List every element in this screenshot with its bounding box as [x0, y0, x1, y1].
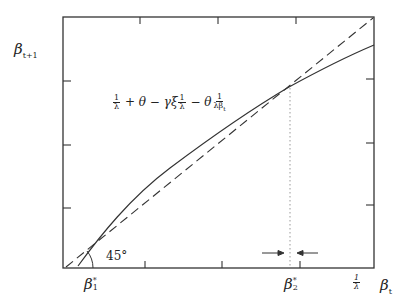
fraction-one-over-lambda-beta: 1λβt [213, 93, 227, 112]
beta1-sub: 1 [93, 284, 98, 291]
beta2-base: β [284, 275, 293, 293]
beta2-sub: 2 [293, 284, 298, 291]
fraction-one-over-lambda-2: 1λ [178, 94, 185, 111]
curve-formula-label: 1λ + θ − γξ1λ − θ1λβt [112, 93, 228, 112]
y-axis-label: βt+1 [14, 42, 38, 60]
fraction-one-over-lambda: 1λ [113, 94, 120, 111]
theta-symbol-2: θ [204, 95, 211, 109]
frac-den: λ [353, 283, 360, 291]
frac-den: λ [113, 103, 120, 111]
y-axis-label-sub: t+1 [23, 51, 38, 60]
theta-symbol: θ [139, 95, 146, 109]
x-axis-label-sub: t [389, 287, 392, 296]
frac-den-sub: t [223, 105, 225, 112]
beta1-base: β [84, 275, 93, 293]
top-axis-ticks [140, 17, 296, 24]
y-axis-label-base: β [14, 40, 23, 58]
45-degree-line [66, 18, 373, 267]
gamma-xi-symbol: γξ [164, 95, 178, 109]
angle-label: 45° [106, 250, 127, 262]
map-curve [78, 45, 374, 266]
frac-den: λ [178, 103, 185, 111]
right-axis-ticks [366, 79, 374, 205]
minus-sign-2: − [187, 95, 205, 109]
one-over-lambda-label: 1λ [352, 274, 361, 291]
frac-den: λβt [213, 102, 227, 112]
beta1-star-label: β*1 [84, 277, 98, 292]
bottom-axis-ticks [145, 261, 300, 268]
left-axis-ticks [63, 81, 71, 208]
x-axis-label: βt [380, 278, 392, 296]
x-axis-label-base: β [380, 276, 389, 294]
minus-sign: − [146, 95, 164, 109]
phase-diagram-canvas [0, 0, 407, 301]
frac-den-text: λβ [214, 101, 224, 110]
beta2-star-label: β*2 [284, 277, 298, 292]
plus-sign: + [121, 95, 139, 109]
fraction-one-over-lambda-axis: 1λ [353, 274, 360, 291]
